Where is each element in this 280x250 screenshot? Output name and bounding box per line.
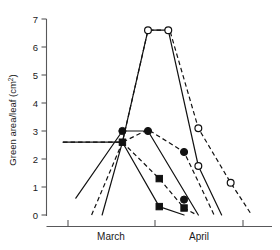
y-axis-title-main: Green area/leaf (cm bbox=[7, 81, 18, 166]
series-line-filled-square-solid bbox=[63, 142, 184, 215]
x-category-label-march: March bbox=[97, 231, 125, 242]
marker-filled-square-9 bbox=[119, 139, 125, 145]
y-axis-title: Green area/leaf (cm2) bbox=[7, 74, 19, 165]
marker-filled-square-11 bbox=[156, 203, 162, 209]
y-tick-label-4: 4 bbox=[33, 98, 38, 109]
y-tick-label-6: 6 bbox=[33, 42, 38, 53]
marker-filled-circle-5 bbox=[119, 127, 126, 134]
series-layer bbox=[63, 30, 252, 215]
x-category-label-april: April bbox=[189, 231, 209, 242]
marker-filled-circle-8 bbox=[180, 196, 187, 203]
y-axis-title-tail: ) bbox=[7, 74, 18, 77]
y-tick-label-7: 7 bbox=[33, 14, 38, 25]
marker-open-circle-3 bbox=[195, 125, 202, 132]
y-tick-label-3: 3 bbox=[33, 126, 38, 137]
marker-open-circle-0 bbox=[145, 27, 152, 34]
y-tick-label-1: 1 bbox=[33, 182, 38, 193]
y-tick-label-2: 2 bbox=[33, 154, 38, 165]
y-tick-label-0: 0 bbox=[33, 210, 38, 221]
series-line-open-circle-solid bbox=[102, 30, 222, 215]
marker-open-circle-1 bbox=[165, 27, 172, 34]
y-axis: 7 6 5 4 3 2 1 0 bbox=[33, 14, 47, 221]
y-axis-title-group: Green area/leaf (cm2) bbox=[7, 74, 19, 165]
chart-figure: 7 6 5 4 3 2 1 0 Green area/leaf (cm2) Ma… bbox=[0, 0, 280, 250]
marker-filled-square-10 bbox=[156, 175, 162, 181]
marker-filled-circle-7 bbox=[180, 148, 187, 155]
series-line-open-circle-dashed bbox=[92, 30, 252, 215]
marker-filled-square-12 bbox=[181, 205, 187, 211]
marker-open-circle-4 bbox=[227, 179, 234, 186]
y-tick-label-5: 5 bbox=[33, 70, 38, 81]
marker-filled-circle-6 bbox=[144, 127, 151, 134]
chart-canvas: 7 6 5 4 3 2 1 0 Green area/leaf (cm2) Ma… bbox=[0, 0, 280, 250]
marker-open-circle-2 bbox=[195, 163, 202, 170]
x-axis: March April bbox=[47, 220, 273, 242]
